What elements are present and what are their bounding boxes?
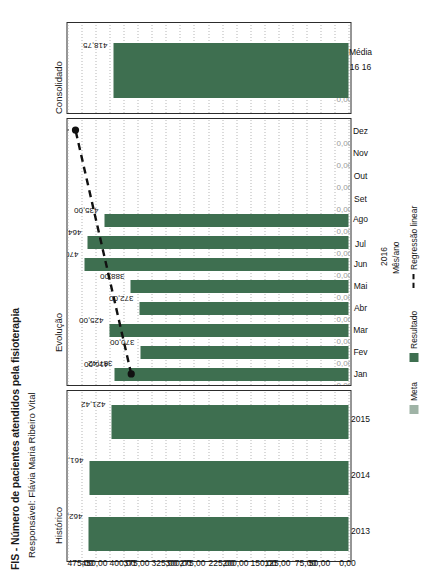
gridline xyxy=(67,391,68,561)
meta-value-label: 0,00 xyxy=(336,227,351,236)
panel-label-historico: Histórico xyxy=(52,507,63,544)
bar-resultado[interactable] xyxy=(114,368,348,382)
category-tick: Abr xyxy=(353,303,366,313)
bar-value-label: 421,42 xyxy=(81,400,105,409)
meta-value-label: 0,00 xyxy=(336,293,351,302)
value-tick-label: 0,00 xyxy=(339,558,356,568)
category-tick-media: Média xyxy=(348,47,371,57)
category-tick: Mar xyxy=(353,325,368,335)
legend-item-regressao: Regressão linear xyxy=(408,206,418,288)
axis-year: 2016 xyxy=(378,247,388,266)
gridline xyxy=(95,119,96,385)
bar-resultado[interactable] xyxy=(87,236,348,250)
bar-resultado[interactable] xyxy=(104,214,348,228)
category-tick: Jul xyxy=(355,239,366,249)
value-tick-label: 150,00 xyxy=(250,558,276,568)
meta-value-label: 0,00 xyxy=(336,381,351,386)
bar-resultado[interactable] xyxy=(139,302,348,316)
value-tick-label: 400,00 xyxy=(109,558,135,568)
meta-value-label: 0,00 xyxy=(336,271,351,280)
category-tick: 2015 xyxy=(351,414,370,424)
category-tick: Fev xyxy=(353,347,367,357)
figure: FIS - Número de pacientes atendidos pela… xyxy=(0,0,431,584)
bar-resultado[interactable] xyxy=(109,324,348,338)
value-tick-label: 75,00 xyxy=(294,558,315,568)
category-tick: Jun xyxy=(353,259,367,269)
bar-resultado[interactable] xyxy=(84,258,348,272)
panel-label-evolucao: Evolução xyxy=(52,313,63,352)
legend-label-meta: Meta xyxy=(408,382,418,401)
axis-title: Mês/ano xyxy=(390,241,400,274)
meta-value-label: 0,00 xyxy=(336,161,351,170)
category-tick: Nov xyxy=(352,148,367,158)
bar-value-label: 464,00 xyxy=(66,228,81,237)
bar-value-label: 425,00 xyxy=(79,316,103,325)
bar-resultado[interactable] xyxy=(88,517,348,552)
category-tick: Ago xyxy=(352,214,367,224)
category-tick: 2013 xyxy=(351,526,370,536)
bar-value-label: 470,00 xyxy=(66,250,78,259)
bar-resultado[interactable] xyxy=(113,44,348,99)
bar-value-label: 388,00 xyxy=(99,272,123,281)
panel-evolucao: 0,00416,000,00370,000,00425,000,00372,00… xyxy=(66,118,351,386)
category-tick: Set xyxy=(354,194,367,204)
meta-value-label: 0,00 xyxy=(336,359,351,368)
legend-swatch-resultado-icon xyxy=(409,353,418,362)
bar-resultado[interactable] xyxy=(140,346,348,360)
value-tick-label: 325,00 xyxy=(151,558,177,568)
meta-value-label: 0,00 xyxy=(336,337,351,346)
gridline xyxy=(95,23,96,113)
legend-label-resultado: Resultado xyxy=(408,311,418,349)
meta-value-label: 0,00 xyxy=(336,249,351,258)
bar-resultado[interactable] xyxy=(89,461,348,496)
gridline xyxy=(81,391,82,561)
bar-value-label: 372,00 xyxy=(108,294,132,303)
page-subtitle: Responsável: Flávia Maria Ribeiro Vital xyxy=(25,392,36,558)
legend-swatch-meta-icon xyxy=(409,405,418,414)
category-tick: Dez xyxy=(352,126,367,136)
meta-value-label: 0,00 xyxy=(336,315,351,324)
bar-value-label: 370,00 xyxy=(110,338,134,347)
bar-value-label: 435,00 xyxy=(73,206,97,215)
meta-value-label: 0,00 xyxy=(336,205,351,214)
category-tick: Jan xyxy=(353,369,367,379)
panel-consolidado: 0,00418,75 xyxy=(66,22,351,114)
meta-value-label: 0,00 xyxy=(336,139,351,148)
legend-item-meta: Meta xyxy=(408,382,418,414)
legend-item-resultado: Resultado xyxy=(408,311,418,362)
gridline xyxy=(81,119,82,385)
category-tick: Mai xyxy=(353,281,367,291)
chart-page: FIS - Número de pacientes atendidos pela… xyxy=(0,0,431,584)
panel-label-consolidado: Consolidado xyxy=(52,61,63,114)
category-tick: 2014 xyxy=(351,470,370,480)
meta-value-label: 0,00 xyxy=(336,183,351,192)
category-tick-year: 16 16 xyxy=(349,62,370,72)
value-tick-label: 225,00 xyxy=(208,558,234,568)
rotated-figure-wrapper: FIS - Número de pacientes atendidos pela… xyxy=(0,0,431,584)
legend-label-regressao: Regressão linear xyxy=(408,206,418,270)
gridline xyxy=(81,23,82,113)
gridline xyxy=(109,23,110,113)
category-tick: Out xyxy=(353,171,367,181)
bar-resultado[interactable] xyxy=(130,280,348,294)
bar-value-label: 461,17 xyxy=(66,456,83,465)
bar-value-label: 418,75 xyxy=(82,41,106,50)
value-tick-label: 475,00 xyxy=(67,558,93,568)
bar-value-label: 462,92 xyxy=(66,512,82,521)
page-title: FIS - Número de pacientes atendidos pela… xyxy=(8,308,20,570)
legend-dash-icon xyxy=(412,274,414,288)
bar-resultado[interactable] xyxy=(111,405,348,440)
panel-historico: 462,92461,17421,42 xyxy=(66,390,351,562)
gridline xyxy=(67,23,68,113)
gridline xyxy=(137,119,138,385)
regression-value-label: 387,42 xyxy=(88,359,112,368)
